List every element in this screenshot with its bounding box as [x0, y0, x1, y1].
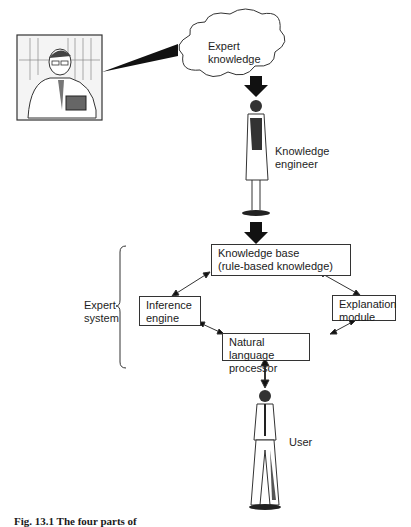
arrow-down-icon — [244, 76, 268, 97]
em-line1: Explanation — [339, 298, 389, 311]
nlp-line2: processor — [229, 362, 303, 375]
kb-line2: (rule-based knowledge) — [218, 260, 344, 273]
cloud-label-line1: Expert — [208, 40, 261, 53]
nlp-box: Natural language processor — [222, 333, 310, 361]
knowledge-base-box: Knowledge base (rule-based knowledge) — [211, 244, 351, 276]
es-label-line2: system — [84, 312, 119, 325]
ie-line1: Inference — [146, 299, 194, 312]
user-label: User — [289, 436, 312, 449]
arrow-down-icon — [244, 222, 268, 244]
knowledge-engineer-label: Knowledge engineer — [275, 145, 329, 171]
cloud-label-line2: knowledge — [208, 53, 261, 66]
kb-line1: Knowledge base — [218, 247, 344, 260]
ie-line2: engine — [146, 312, 194, 325]
explanation-module-box: Explanation module — [332, 295, 396, 321]
em-line2: module — [339, 311, 389, 324]
ke-label-line2: engineer — [275, 158, 329, 171]
speech-wedge — [102, 44, 178, 72]
nlp-line1: Natural language — [229, 336, 303, 362]
expert-portrait — [17, 35, 102, 120]
ke-label-line1: Knowledge — [275, 145, 329, 158]
inference-engine-box: Inference engine — [139, 296, 201, 326]
cloud-label: Expert knowledge — [208, 40, 261, 66]
figure-caption: Fig. 13.1 The four parts of — [14, 515, 137, 527]
user-figure — [249, 390, 281, 510]
knowledge-engineer-figure — [242, 100, 270, 216]
es-label-line1: Expert — [84, 299, 119, 312]
expert-system-label: Expert system — [84, 299, 119, 325]
